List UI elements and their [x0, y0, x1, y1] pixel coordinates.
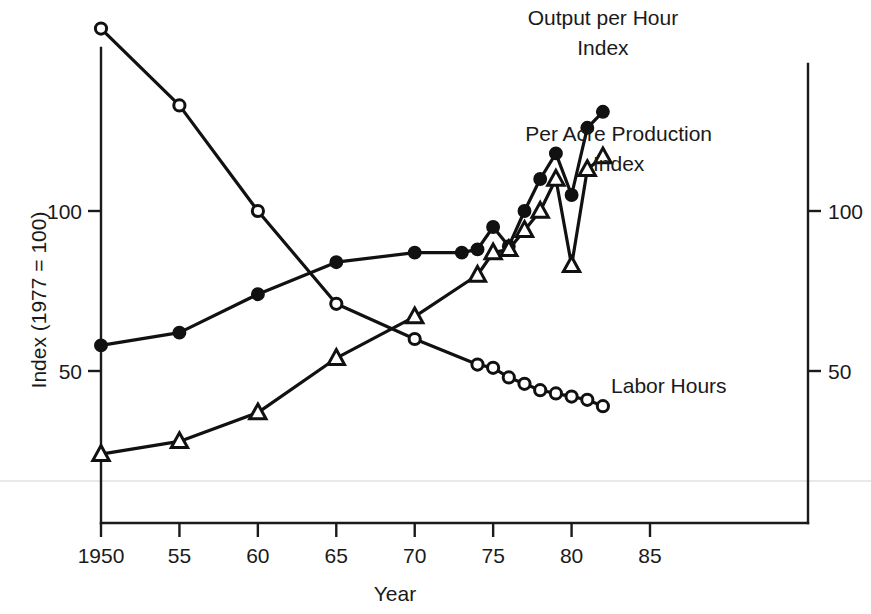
left-y-tick-label-100: 100 — [47, 200, 82, 223]
data-point — [471, 243, 483, 255]
data-point — [472, 359, 483, 370]
data-point — [563, 257, 579, 272]
data-point — [550, 388, 561, 399]
label-line: Index — [593, 152, 645, 175]
data-point — [519, 378, 530, 389]
data-point — [518, 205, 530, 217]
label-line: Index — [577, 36, 629, 59]
x-tick-label-60: 60 — [246, 544, 269, 567]
x-tick-label-80: 80 — [560, 544, 583, 567]
right-y-tick-label-50: 50 — [828, 360, 851, 383]
data-point — [331, 298, 342, 309]
data-point — [93, 446, 109, 461]
data-point — [532, 202, 548, 217]
data-point — [582, 394, 593, 405]
x-tick-label-1950: 1950 — [78, 544, 125, 567]
plot-area — [93, 23, 611, 460]
data-point — [597, 106, 609, 118]
data-point — [409, 246, 421, 258]
data-point — [250, 404, 266, 419]
data-point — [550, 147, 562, 159]
right-y-tick-label-100: 100 — [828, 200, 863, 223]
data-point — [174, 100, 185, 111]
label-line: Per Acre Production — [525, 122, 712, 145]
chart-page: 1950556065707580855050100100 Labor Hours… — [0, 0, 871, 614]
data-point — [328, 350, 344, 365]
label-group: Labor HoursOutput per HourIndexPer Acre … — [525, 6, 726, 397]
data-point — [565, 189, 577, 201]
data-point — [330, 256, 342, 268]
axis-group — [101, 48, 808, 523]
x-tick-label-55: 55 — [168, 544, 191, 567]
x-tick-label-85: 85 — [638, 544, 661, 567]
label-line: Labor Hours — [611, 374, 727, 397]
data-point — [173, 326, 185, 338]
x-tick-label-75: 75 — [481, 544, 504, 567]
data-point — [487, 221, 499, 233]
data-point — [566, 391, 577, 402]
data-point — [171, 433, 187, 448]
data-point — [409, 333, 420, 344]
data-point — [534, 173, 546, 185]
data-point — [456, 246, 468, 258]
data-point — [597, 401, 608, 412]
x-tick-label-65: 65 — [325, 544, 348, 567]
labor-hours-label: Labor Hours — [611, 374, 727, 397]
data-point — [535, 385, 546, 396]
data-point — [503, 372, 514, 383]
x-tick-label-70: 70 — [403, 544, 426, 567]
label-line: Output per Hour — [528, 6, 679, 29]
data-point — [95, 339, 107, 351]
output-per-hour-index-label: Output per HourIndex — [528, 6, 679, 59]
data-point — [488, 362, 499, 373]
data-point — [407, 308, 423, 323]
data-point — [252, 205, 263, 216]
data-point — [252, 288, 264, 300]
x-axis-title: Year — [374, 582, 416, 605]
left-y-tick-label-50: 50 — [59, 360, 82, 383]
data-point — [95, 23, 106, 34]
tick-group: 1950556065707580855050100100 — [47, 200, 863, 567]
y-axis-title: Index (1977 = 100) — [27, 212, 50, 389]
agriculture-productivity-chart: 1950556065707580855050100100 Labor Hours… — [0, 0, 871, 614]
